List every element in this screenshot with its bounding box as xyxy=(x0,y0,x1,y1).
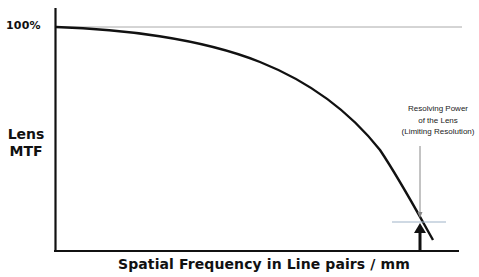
x-axis-label: Spatial Frequency in Line pairs / mm xyxy=(118,256,410,272)
y-tick-100-percent: 100% xyxy=(6,19,41,32)
y-axis-label: Lens MTF xyxy=(4,126,48,160)
annotation-line3: (Limiting Resolution) xyxy=(396,126,479,138)
mtf-curve xyxy=(56,27,433,240)
annotation-line1: Resolving Power xyxy=(396,103,479,115)
y-axis-label-line1: Lens xyxy=(4,126,48,143)
annotation-line2: of the Lens xyxy=(396,115,479,127)
y-axis-label-line2: MTF xyxy=(4,143,48,160)
resolving-power-annotation: Resolving Power of the Lens (Limiting Re… xyxy=(396,103,479,138)
